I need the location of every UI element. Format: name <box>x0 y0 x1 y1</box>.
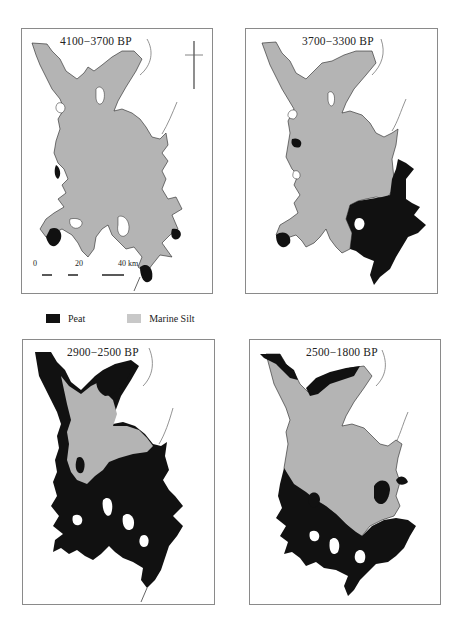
estuary-map <box>250 340 442 606</box>
legend-item-marine-silt: Marine Silt <box>127 313 194 324</box>
scale-bar: 0 20 40 km <box>32 269 142 281</box>
north-arrow-icon <box>185 41 203 89</box>
map-panel-2900-2500: 2900−2500 BP <box>22 339 215 605</box>
peat-area <box>171 229 181 240</box>
peat-area <box>55 165 60 179</box>
panel-title: 3700−3300 BP <box>302 35 374 47</box>
panel-title: 2900−2500 BP <box>67 346 139 358</box>
estuary-map <box>23 340 216 606</box>
panel-title: 2500−1800 BP <box>306 346 378 358</box>
legend-label: Peat <box>68 313 85 324</box>
marine-silt-swatch <box>127 314 141 323</box>
legend-label: Marine Silt <box>149 313 194 324</box>
map-legend: Peat Marine Silt <box>46 310 237 326</box>
map-panel-4100-3700: 4100−3700 BP 0 20 40 km <box>21 28 213 294</box>
scale-label-0: 0 <box>33 259 37 268</box>
estuary-map <box>22 29 214 295</box>
scale-label-40: 40 km <box>118 259 138 268</box>
map-panel-3700-3300: 3700−3300 BP <box>245 28 438 294</box>
scale-label-20: 20 <box>75 259 83 268</box>
estuary-map <box>246 29 439 295</box>
map-panel-2500-1800: 2500−1800 BP <box>249 339 441 605</box>
legend-item-peat: Peat <box>46 313 85 324</box>
panel-title: 4100−3700 BP <box>60 35 132 47</box>
peat-swatch <box>46 314 60 323</box>
